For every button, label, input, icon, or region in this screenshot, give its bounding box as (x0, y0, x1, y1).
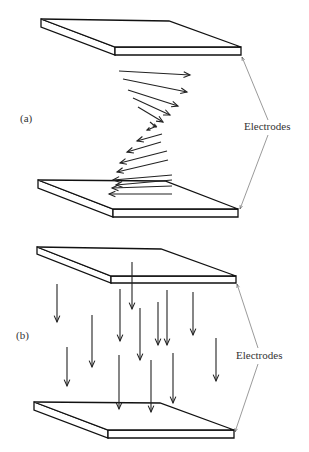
field-arrow (127, 142, 161, 153)
electrode-plate (34, 402, 234, 438)
panel-a-twisted-field: (a) Electrodes (20, 19, 290, 217)
field-arrow (170, 353, 176, 403)
field-arrow (147, 126, 157, 130)
field-arrows-a (109, 71, 190, 197)
field-arrow (138, 107, 163, 122)
field-arrow (155, 302, 161, 345)
electrode-plate (38, 180, 238, 217)
field-arrow (64, 347, 70, 386)
electrodes-label-b: Electrodes (236, 349, 282, 361)
field-arrow (164, 290, 170, 345)
leader-line (240, 135, 268, 209)
field-arrow (137, 308, 143, 360)
leader-line (237, 284, 258, 348)
field-arrow (213, 338, 219, 381)
field-arrow (119, 71, 190, 77)
leader-line (235, 364, 258, 432)
field-arrow (137, 134, 162, 142)
electrode-field-diagram: (a) Electrodes (b) Electrodes (0, 0, 309, 452)
electrode-plate (41, 19, 241, 55)
electrode-plates-b (34, 247, 236, 438)
field-arrow (128, 90, 178, 107)
leader-line (242, 57, 268, 120)
field-arrow (190, 292, 196, 335)
electrodes-label-a: Electrodes (244, 120, 290, 132)
electrode-plate (37, 247, 236, 283)
field-arrow (116, 355, 122, 409)
panel-label-a: (a) (20, 112, 33, 125)
field-arrows-b (54, 262, 219, 412)
panel-b-uniform-field: (b) Electrodes (16, 247, 282, 438)
panel-label-b: (b) (16, 329, 29, 342)
electrode-leader-lines-a (240, 57, 268, 209)
field-arrow (117, 289, 123, 341)
field-arrow (89, 315, 95, 367)
field-arrow (54, 284, 60, 322)
field-arrow (133, 98, 170, 115)
